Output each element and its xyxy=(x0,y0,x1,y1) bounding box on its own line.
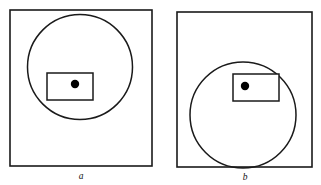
panel-a-dot xyxy=(71,80,79,88)
panel-b-label: b xyxy=(243,172,248,182)
figure-container: a b xyxy=(0,0,321,185)
figure-svg: a b xyxy=(0,0,321,185)
panel-b: b xyxy=(177,12,312,182)
panel-b-dot xyxy=(241,82,249,90)
panel-a: a xyxy=(10,10,152,181)
panel-a-label: a xyxy=(79,171,84,181)
panel-a-inner-rectangle xyxy=(47,73,93,100)
panel-b-inner-rectangle xyxy=(233,74,279,101)
